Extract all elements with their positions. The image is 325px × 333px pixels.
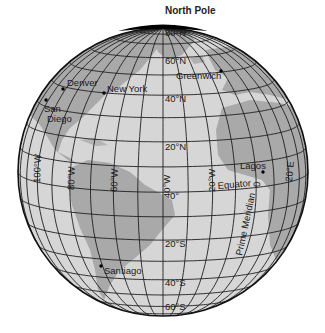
lat-label-20s: 20°S (165, 238, 186, 249)
lon-label-80w: 80°W (65, 166, 77, 190)
denver-label: Denver (67, 77, 98, 88)
santiago-marker (99, 264, 102, 267)
lon-label-40w: 40°W (161, 175, 172, 198)
new-york-label: New York (107, 83, 147, 94)
lat-label-80n: 80°N (165, 27, 186, 38)
north-pole-label: North Pole (165, 5, 216, 16)
lat-label-20n: 20°N (165, 141, 186, 152)
new-york-marker (102, 91, 105, 94)
lon-label-100w: 100°W (31, 154, 43, 183)
lat-label-40s: 40°S (165, 277, 186, 288)
lagos-label: Lagos (240, 160, 266, 171)
lon-label-20e: 20°E (283, 161, 296, 183)
lat-label-60n: 60°N (165, 55, 186, 66)
denver-marker (61, 87, 64, 90)
globe-map: North Pole 80°N 60°N 40°N 20°N 0° 20°S 4… (0, 0, 325, 333)
prime-meridian-zero-label: 0 (251, 181, 262, 187)
lon-label-20w: 20°W (206, 169, 217, 192)
lat-label-60s: 60°S (165, 301, 186, 312)
lat-label-40n: 40°N (165, 93, 186, 104)
greenwich-label: Greenwich (176, 70, 221, 81)
lon-label-60w: 60°W (108, 168, 120, 192)
san-diego-marker (44, 98, 47, 101)
santiago-label: Santiago (104, 265, 142, 276)
san-diego-label-line2: Diego (47, 113, 72, 124)
